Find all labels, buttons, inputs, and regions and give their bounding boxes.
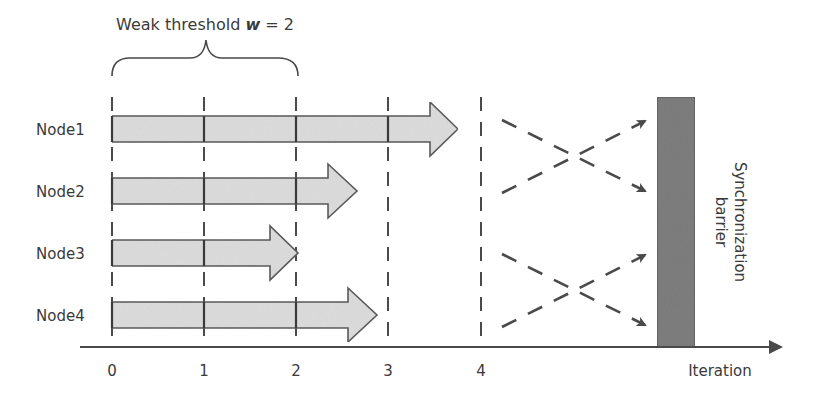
node3-label: Node3 <box>36 245 85 263</box>
threshold-brace <box>112 40 298 76</box>
synchronization-barrier <box>657 97 695 347</box>
cross-arrow-4-up <box>502 255 645 327</box>
gridline-overlays <box>112 116 388 328</box>
node4-label: Node4 <box>36 307 85 325</box>
node1-label: Node1 <box>36 121 85 139</box>
tick-1: 1 <box>199 362 209 380</box>
x-axis-arrowhead-icon <box>769 340 783 354</box>
cross-arrow-1-down <box>502 120 645 191</box>
tick-4: 4 <box>476 362 486 380</box>
crossing-arrows <box>502 120 645 327</box>
diagram-canvas: Weak threshold w = 2 Node1 Node2 Node3 N… <box>0 0 815 401</box>
barrier-label: Synchronization barrier <box>712 162 749 282</box>
cross-arrow-2-up <box>502 121 645 193</box>
node2-arrow <box>112 164 357 218</box>
cross-arrow-3-down <box>502 254 645 325</box>
node1-arrow <box>112 102 458 156</box>
barrier-label-line1: Synchronization <box>731 162 749 282</box>
x-axis-label: Iteration <box>688 362 752 380</box>
node4-arrow <box>112 288 377 342</box>
threshold-title: Weak threshold w = 2 <box>116 15 294 34</box>
node-arrows <box>112 102 458 342</box>
tick-3: 3 <box>383 362 393 380</box>
tick-0: 0 <box>107 362 117 380</box>
node2-label: Node2 <box>36 183 85 201</box>
tick-2: 2 <box>291 362 301 380</box>
barrier-label-line2: barrier <box>712 197 730 248</box>
